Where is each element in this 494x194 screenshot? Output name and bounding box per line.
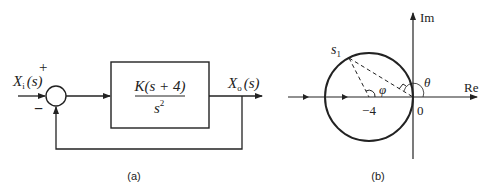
transfer-function-block: [111, 62, 209, 128]
angle-theta-label: θ: [424, 75, 431, 90]
plus-sign: +: [39, 59, 47, 75]
minus-sign: −: [34, 100, 43, 117]
dashed-line-s1-to-zero: [349, 58, 369, 97]
origin-label: 0: [417, 103, 424, 118]
angle-phi-label: φ: [379, 82, 386, 97]
angle-arc-phi: [366, 90, 375, 97]
caption-a: (a): [127, 170, 140, 182]
point-s1-label: s1: [331, 42, 341, 59]
im-axis-label: Im: [420, 10, 434, 25]
locus-direction-arrow-right: [342, 94, 348, 100]
transfer-numerator: K(s + 4): [134, 78, 186, 95]
block-diagram: [18, 62, 262, 149]
locus-direction-arrow-left: [303, 94, 309, 100]
diagram-canvas: Xi(s) + − K(s + 4) s2 Xo(s) (a) Im Re 0 …: [0, 0, 494, 194]
re-axis-label: Re: [464, 80, 479, 95]
output-label: Xo(s): [227, 75, 260, 93]
zero-location-label: −4: [362, 103, 376, 118]
caption-b: (b): [371, 170, 384, 182]
input-label: Xi(s): [12, 73, 43, 91]
summing-junction: [46, 86, 66, 106]
